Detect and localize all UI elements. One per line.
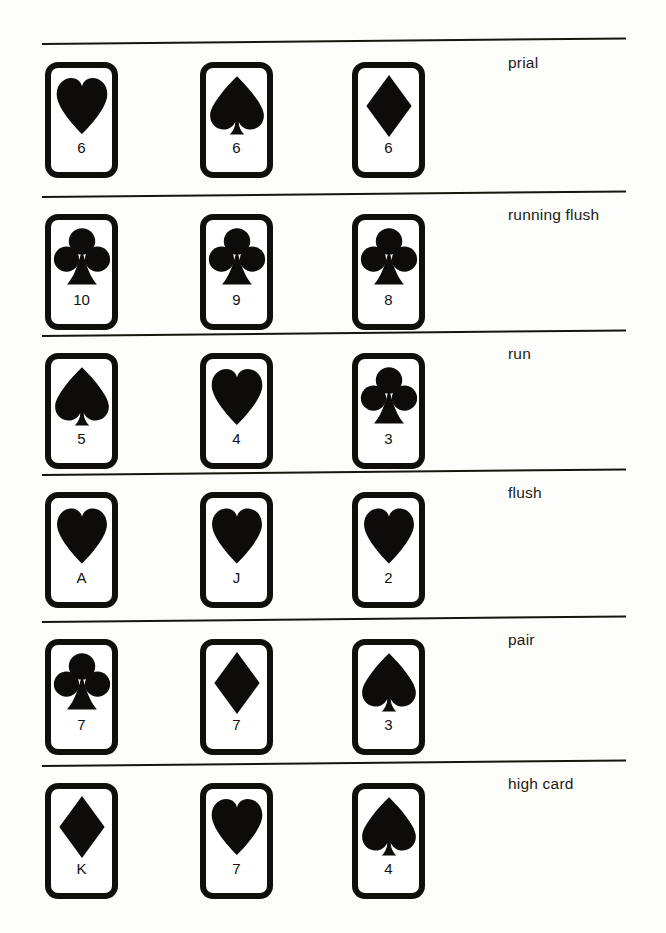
playing-card: 7 bbox=[200, 639, 273, 755]
card-rank: 9 bbox=[232, 292, 240, 307]
heart-icon bbox=[358, 498, 419, 572]
card-rank: 6 bbox=[232, 140, 240, 155]
diamond-icon bbox=[358, 68, 419, 142]
card-rank: J bbox=[233, 570, 241, 585]
card-rank: A bbox=[76, 570, 86, 585]
club-icon bbox=[51, 645, 112, 719]
club-icon bbox=[358, 220, 419, 294]
card-rank: 6 bbox=[384, 140, 392, 155]
club-icon bbox=[206, 220, 267, 294]
spade-icon bbox=[358, 789, 419, 863]
card-rank: 10 bbox=[73, 292, 90, 307]
playing-card: 3 bbox=[352, 353, 425, 469]
card-rank: 6 bbox=[77, 140, 85, 155]
playing-card: 2 bbox=[352, 492, 425, 608]
card-rank: 7 bbox=[232, 717, 240, 732]
row-separator-rule bbox=[42, 615, 626, 623]
heart-icon bbox=[206, 498, 267, 572]
row-separator-rule bbox=[42, 329, 626, 337]
diamond-icon bbox=[206, 645, 267, 719]
spade-icon bbox=[358, 645, 419, 719]
club-icon bbox=[51, 220, 112, 294]
club-icon bbox=[358, 359, 419, 433]
card-rank: K bbox=[76, 861, 86, 876]
diamond-icon bbox=[51, 789, 112, 863]
hand-rankings-chart: prial 6 6 6running flush 10 9 8run 5 4 bbox=[0, 0, 666, 933]
hand-rank-label: running flush bbox=[508, 206, 599, 224]
row-separator-rule bbox=[42, 759, 626, 767]
playing-card: 9 bbox=[200, 214, 273, 330]
card-rank: 8 bbox=[384, 292, 392, 307]
playing-card: J bbox=[200, 492, 273, 608]
heart-icon bbox=[206, 789, 267, 863]
spade-icon bbox=[51, 359, 112, 433]
hand-rank-label: prial bbox=[508, 54, 538, 72]
playing-card: 10 bbox=[45, 214, 118, 330]
card-rank: 4 bbox=[384, 861, 392, 876]
playing-card: 4 bbox=[200, 353, 273, 469]
card-rank: 2 bbox=[384, 570, 392, 585]
row-separator-rule bbox=[42, 468, 626, 476]
card-rank: 7 bbox=[232, 861, 240, 876]
playing-card: K bbox=[45, 783, 118, 899]
card-rank: 4 bbox=[232, 431, 240, 446]
playing-card: A bbox=[45, 492, 118, 608]
card-rank: 3 bbox=[384, 717, 392, 732]
playing-card: 6 bbox=[45, 62, 118, 178]
heart-icon bbox=[51, 68, 112, 142]
card-rank: 7 bbox=[77, 717, 85, 732]
card-rank: 3 bbox=[384, 431, 392, 446]
heart-icon bbox=[206, 359, 267, 433]
playing-card: 7 bbox=[45, 639, 118, 755]
hand-rank-label: run bbox=[508, 345, 531, 363]
playing-card: 3 bbox=[352, 639, 425, 755]
hand-rank-label: flush bbox=[508, 484, 542, 502]
card-rank: 5 bbox=[77, 431, 85, 446]
heart-icon bbox=[51, 498, 112, 572]
hand-rank-label: pair bbox=[508, 631, 535, 649]
row-separator-rule bbox=[42, 37, 626, 45]
playing-card: 8 bbox=[352, 214, 425, 330]
row-separator-rule bbox=[42, 190, 626, 198]
playing-card: 6 bbox=[352, 62, 425, 178]
playing-card: 5 bbox=[45, 353, 118, 469]
playing-card: 4 bbox=[352, 783, 425, 899]
playing-card: 6 bbox=[200, 62, 273, 178]
hand-rank-label: high card bbox=[508, 775, 574, 793]
playing-card: 7 bbox=[200, 783, 273, 899]
spade-icon bbox=[206, 68, 267, 142]
